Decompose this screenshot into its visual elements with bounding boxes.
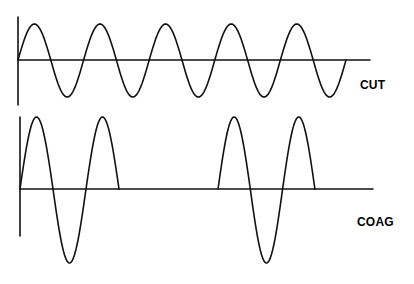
coag-burst-1 — [20, 117, 119, 263]
coag-burst-2 — [218, 117, 315, 263]
coag-label: COAG — [357, 215, 394, 229]
waveform-diagram — [0, 0, 414, 284]
cut-label: CUT — [360, 78, 385, 92]
